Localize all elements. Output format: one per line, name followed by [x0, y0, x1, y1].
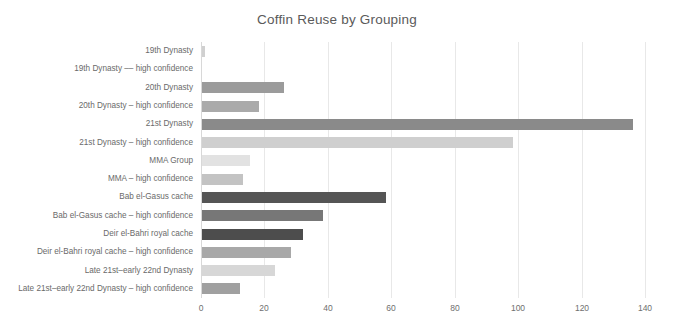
bar — [202, 101, 259, 112]
category-axis-label: 19th Dynasty — [0, 46, 197, 56]
bar — [202, 247, 291, 258]
category-axis-label: 19th Dynasty –– high confidence — [0, 64, 197, 74]
category-axis-label: MMA – high confidence — [0, 174, 197, 184]
gridline — [645, 42, 646, 298]
value-axis-tick-label: 20 — [259, 303, 268, 313]
value-axis-tick-label: 100 — [511, 303, 525, 313]
value-axis-zero-line — [201, 42, 202, 298]
bar — [202, 46, 205, 57]
bar — [202, 210, 323, 221]
value-axis-tick-label: 80 — [450, 303, 459, 313]
bar — [202, 119, 633, 130]
category-axis-label: MMA Group — [0, 156, 197, 166]
gridline — [582, 42, 583, 298]
value-axis-tick-label: 0 — [199, 303, 204, 313]
bar — [202, 137, 513, 148]
value-axis: 020406080100120140 — [201, 303, 645, 319]
gridline — [328, 42, 329, 298]
category-axis-label: Late 21st–early 22nd Dynasty – high conf… — [0, 284, 197, 294]
value-axis-tick-label: 40 — [323, 303, 332, 313]
plot-area — [201, 42, 645, 298]
category-axis: 19th Dynasty19th Dynasty –– high confide… — [0, 42, 197, 298]
bar — [202, 174, 243, 185]
gridline — [455, 42, 456, 298]
bar — [202, 283, 240, 294]
gridline — [391, 42, 392, 298]
bar — [202, 192, 386, 203]
value-axis-tick-label: 140 — [638, 303, 652, 313]
bar — [202, 229, 303, 240]
category-axis-label: 21st Dynasty – high confidence — [0, 138, 197, 148]
value-axis-tick-label: 60 — [386, 303, 395, 313]
chart-title: Coffin Reuse by Grouping — [0, 12, 674, 27]
category-axis-label: Deir el-Bahri royal cache – high confide… — [0, 247, 197, 257]
bar — [202, 265, 275, 276]
category-axis-label: 20th Dynasty – high confidence — [0, 101, 197, 111]
bar — [202, 82, 284, 93]
category-axis-label: Late 21st–early 22nd Dynasty — [0, 266, 197, 276]
category-axis-label: Bab el-Gasus cache — [0, 192, 197, 202]
bar-chart: Coffin Reuse by Grouping 19th Dynasty19t… — [0, 0, 674, 332]
gridline — [264, 42, 265, 298]
bar — [202, 155, 250, 166]
category-axis-label: Bab el-Gasus cache – high confidence — [0, 211, 197, 221]
gridline — [518, 42, 519, 298]
category-axis-label: Deir el-Bahri royal cache — [0, 229, 197, 239]
value-axis-tick-label: 120 — [575, 303, 589, 313]
category-axis-label: 21st Dynasty — [0, 119, 197, 129]
category-axis-label: 20th Dynasty — [0, 83, 197, 93]
